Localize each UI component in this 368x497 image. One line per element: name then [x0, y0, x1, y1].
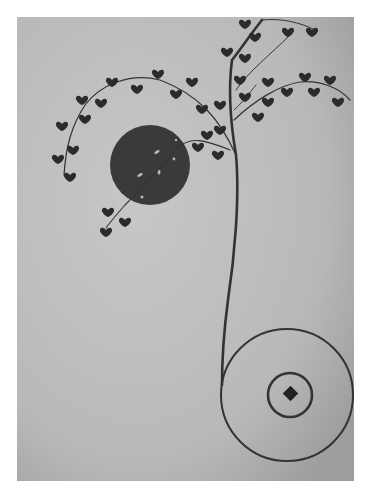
- painting: [0, 0, 368, 497]
- sun-disc: [110, 125, 190, 205]
